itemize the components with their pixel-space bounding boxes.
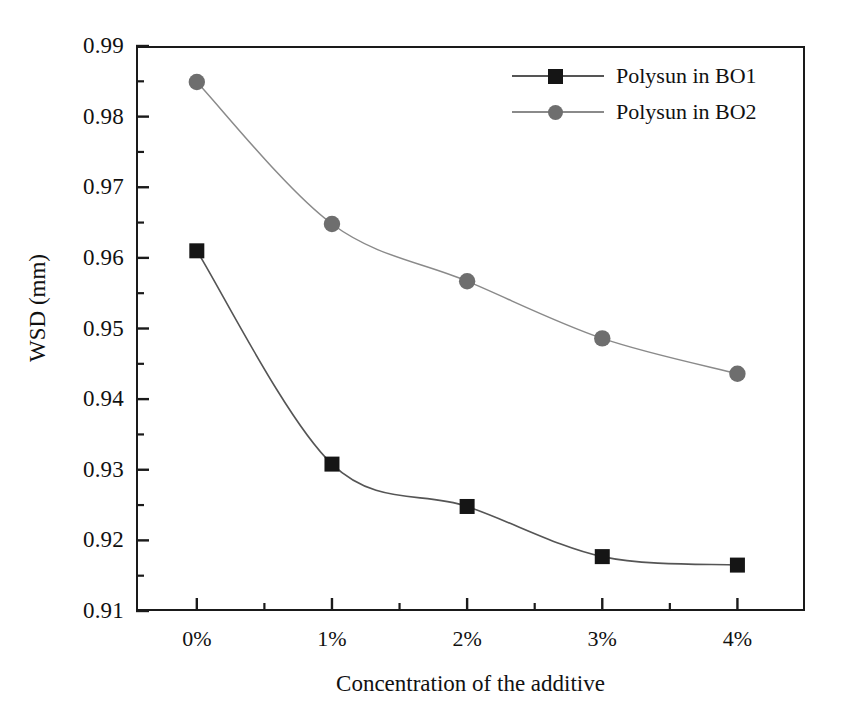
x-axis-tick-label: 1%: [292, 628, 372, 650]
y-axis-title: WSD (mm): [26, 208, 50, 408]
legend-sample-bo1: [512, 64, 604, 88]
legend-label-bo2: Polysun in BO2: [604, 100, 757, 124]
legend-entry-bo2: Polysun in BO2: [512, 94, 802, 130]
x-axis-title: Concentration of the additive: [136, 672, 805, 696]
x-axis-tick-label: 0%: [157, 628, 237, 650]
circle-marker-icon: [548, 105, 563, 120]
chart-figure: 0.990.980.970.960.950.940.930.920.91 0%1…: [0, 0, 845, 717]
square-marker-icon: [548, 69, 563, 84]
x-axis-tick-label: 2%: [427, 628, 507, 650]
chart-legend: Polysun in BO1 Polysun in BO2: [512, 58, 802, 130]
legend-entry-bo1: Polysun in BO1: [512, 58, 802, 94]
legend-sample-bo2: [512, 100, 604, 124]
x-axis-tick-label: 4%: [697, 628, 777, 650]
legend-label-bo1: Polysun in BO1: [604, 64, 757, 88]
x-axis-tick-label: 3%: [562, 628, 642, 650]
